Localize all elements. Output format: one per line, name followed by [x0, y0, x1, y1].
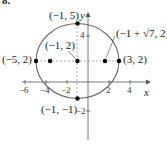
center-leader-line	[68, 51, 77, 60]
x-tick-label: 4	[127, 86, 132, 95]
x-axis-arrow-icon	[146, 80, 151, 85]
point-top	[75, 21, 79, 25]
y-tick-label: 4	[80, 31, 85, 40]
x-tick-label: 2	[106, 86, 111, 95]
point-focus-left	[48, 59, 52, 63]
x-tick-label: −6	[19, 86, 29, 95]
y-axis-arrow-icon	[86, 12, 91, 17]
point-bottom	[75, 96, 79, 100]
y-axis-label: y	[80, 10, 85, 21]
x-tick-label: −4	[40, 86, 50, 95]
focus-leader-line	[106, 36, 115, 58]
y-tick-label: −2	[76, 107, 86, 116]
label-center-point: (−1, 2)	[45, 40, 75, 51]
label-top-point: (−1, 5)	[49, 10, 79, 21]
label-focus-point: (−1 + √7, 2)	[116, 28, 167, 39]
circle-plot	[0, 0, 167, 145]
point-right	[117, 59, 121, 63]
x-tick-label: −2	[61, 86, 71, 95]
point-left	[34, 59, 38, 63]
point-focus-right	[103, 59, 107, 63]
label-left-point: (−5, 2)	[2, 54, 32, 65]
label-right-point: (3, 2)	[123, 54, 147, 65]
point-center	[75, 59, 79, 63]
x-axis-label: x	[144, 87, 149, 98]
label-bottom-point: (−1, −1)	[41, 104, 77, 115]
